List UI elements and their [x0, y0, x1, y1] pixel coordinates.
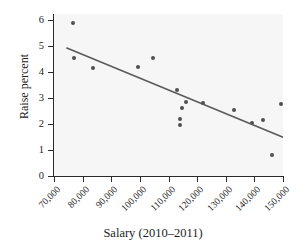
- y-tick-mark: [48, 150, 53, 151]
- y-axis-line: [53, 14, 54, 177]
- x-tick-mark: [169, 177, 170, 182]
- x-tick-mark: [283, 177, 284, 182]
- x-tick-mark: [111, 177, 112, 182]
- data-point: [71, 21, 75, 25]
- data-point: [279, 102, 283, 106]
- y-tick-label: 2: [39, 119, 44, 130]
- y-tick-mark: [48, 98, 53, 99]
- plot-area: [54, 14, 283, 176]
- data-point: [151, 56, 155, 60]
- y-tick-mark: [48, 124, 53, 125]
- x-tick-mark: [254, 177, 255, 182]
- x-tick-mark: [197, 177, 198, 182]
- x-tick-mark: [54, 177, 55, 182]
- y-tick-mark: [48, 46, 53, 47]
- y-tick-label: 0: [39, 171, 44, 182]
- y-axis-title: Raise percent: [17, 22, 32, 152]
- y-tick-label: 6: [39, 15, 44, 26]
- x-tick-mark: [140, 177, 141, 182]
- x-tick-mark: [226, 177, 227, 182]
- x-tick-mark: [83, 177, 84, 182]
- y-tick-label: 3: [39, 93, 44, 104]
- data-point: [72, 56, 76, 60]
- data-point: [91, 66, 95, 70]
- y-tick-label: 5: [39, 41, 44, 52]
- y-tick-label: 4: [39, 67, 44, 78]
- y-tick-mark: [48, 72, 53, 73]
- y-tick-mark: [48, 176, 53, 177]
- x-axis-title: Salary (2010–2011): [0, 226, 306, 241]
- y-tick-mark: [48, 20, 53, 21]
- y-tick-label: 1: [39, 145, 44, 156]
- data-point: [270, 153, 274, 157]
- scatter-plot-figure: 0123456 70,00080,00090,000100,000110,000…: [0, 0, 306, 248]
- data-point: [178, 117, 182, 121]
